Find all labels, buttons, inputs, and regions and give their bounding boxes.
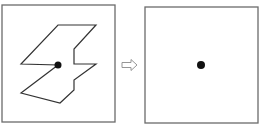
diagram-svg <box>0 0 268 126</box>
diagram-canvas <box>0 0 268 126</box>
right-panel <box>145 7 258 123</box>
hollow-right-arrow-icon <box>122 60 137 71</box>
left-center-dot <box>55 62 62 69</box>
left-panel <box>2 5 115 122</box>
right-center-dot <box>197 61 205 69</box>
